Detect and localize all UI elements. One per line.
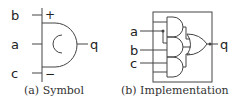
symbol-input-b-label: b: [11, 8, 19, 23]
implementation-caption: (b) Implementation: [121, 84, 229, 97]
plus-sign-icon: +: [45, 8, 55, 22]
implementation-diagram: a b c q: [110, 0, 251, 84]
symbol-diagram: b a c + − q: [0, 0, 110, 84]
and-gate-2-icon: [167, 37, 183, 57]
and-gate-3-icon: [167, 57, 183, 77]
wire-a-branch: [163, 31, 167, 43]
gate-body-shape: [42, 23, 77, 67]
symbol-output-q-label: q: [90, 37, 98, 52]
and3-to-or-wire: [183, 54, 190, 67]
impl-input-a-label: a: [130, 24, 138, 39]
output-junction-dot: [209, 43, 212, 46]
minus-sign-icon: −: [45, 67, 55, 81]
c-element-glyph-icon: [53, 35, 62, 53]
and-gate-1-icon: [167, 17, 183, 37]
symbol-caption: (a) Symbol: [24, 84, 84, 97]
or-gate-icon: [187, 34, 207, 55]
impl-output-q-label: q: [220, 37, 228, 52]
symbol-input-c-label: c: [11, 66, 18, 81]
impl-input-c-label: c: [130, 56, 137, 71]
symbol-input-a-label: a: [11, 37, 19, 52]
